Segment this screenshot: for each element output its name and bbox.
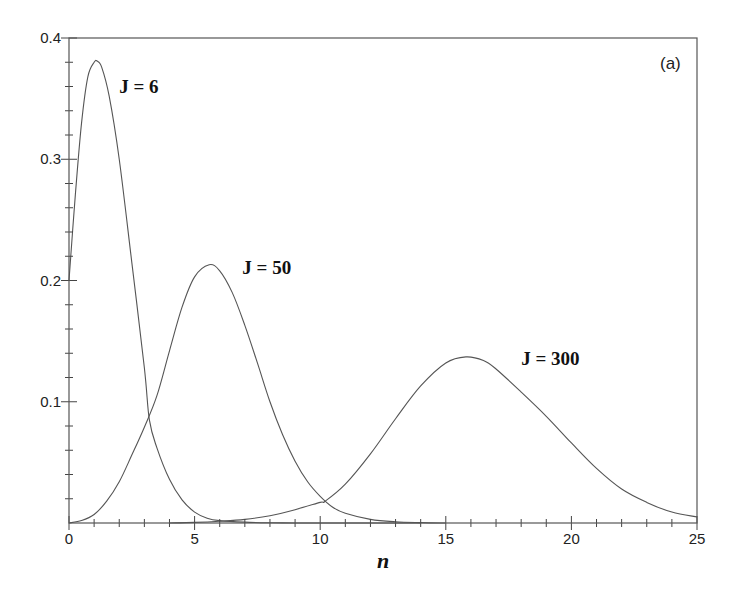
- curve-labels: J = 6J = 50J = 300: [119, 76, 579, 370]
- x-axis-title: n: [377, 548, 389, 573]
- curve-series-2: [69, 265, 446, 523]
- curve-group: [69, 60, 697, 523]
- line-chart: 05101520250.10.20.30.4 J = 6J = 50J = 30…: [0, 0, 739, 609]
- x-tick-label: 25: [689, 530, 706, 547]
- plot-frame: [69, 38, 697, 523]
- y-tick-label: 0.4: [40, 29, 61, 46]
- y-tick-label: 0.3: [40, 150, 61, 167]
- y-tick-label: 0.1: [40, 393, 61, 410]
- x-tick-label: 10: [312, 530, 329, 547]
- curve-series-1: [69, 60, 421, 523]
- x-tick-label: 0: [65, 530, 73, 547]
- curve-series-3: [169, 357, 697, 523]
- curve-label-series-3: J = 300: [521, 348, 579, 369]
- curve-label-series-1: J = 6: [119, 76, 158, 97]
- x-tick-label: 15: [437, 530, 454, 547]
- x-tick-label: 20: [563, 530, 580, 547]
- tick-labels: 05101520250.10.20.30.4: [40, 29, 705, 547]
- curve-label-series-2: J = 50: [242, 257, 291, 278]
- x-tick-label: 5: [190, 530, 198, 547]
- y-tick-label: 0.2: [40, 272, 61, 289]
- panel-label: (a): [660, 54, 681, 73]
- axis-ticks: [61, 38, 697, 530]
